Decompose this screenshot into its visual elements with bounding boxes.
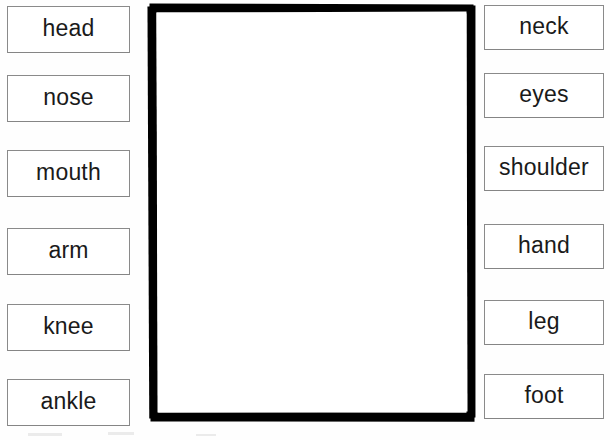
word-label: neck: [519, 15, 568, 38]
word-label: nose: [43, 86, 94, 109]
word-box-mouth[interactable]: mouth: [7, 150, 130, 197]
word-label: head: [43, 17, 95, 40]
word-box-neck[interactable]: neck: [484, 5, 604, 50]
word-box-ankle[interactable]: ankle: [7, 379, 130, 426]
scan-artifact: [28, 433, 62, 436]
word-box-knee[interactable]: knee: [7, 304, 130, 351]
word-box-head[interactable]: head: [7, 6, 130, 53]
frame-edge-right: [466, 6, 475, 418]
worksheet-page: head nose mouth arm knee ankle neck eyes: [0, 0, 610, 440]
frame-edge-bottom: [151, 412, 475, 421]
word-box-eyes[interactable]: eyes: [484, 73, 604, 118]
frame-blank-interior[interactable]: [156, 12, 467, 413]
word-label: foot: [524, 384, 563, 407]
word-label: ankle: [41, 390, 97, 413]
word-label: eyes: [519, 83, 568, 106]
word-box-shoulder[interactable]: shoulder: [484, 146, 604, 191]
center-picture-frame[interactable]: [147, 3, 476, 422]
word-box-leg[interactable]: leg: [484, 300, 604, 345]
word-label: mouth: [36, 161, 101, 184]
word-label: shoulder: [499, 156, 589, 179]
word-box-foot[interactable]: foot: [484, 374, 604, 419]
scan-artifact: [196, 434, 216, 436]
word-label: arm: [48, 239, 88, 262]
scan-artifact: [108, 432, 134, 435]
word-box-arm[interactable]: arm: [7, 228, 130, 275]
word-box-nose[interactable]: nose: [7, 75, 130, 122]
word-label: hand: [518, 234, 570, 257]
word-label: leg: [528, 310, 559, 333]
word-label: knee: [43, 315, 94, 338]
word-box-hand[interactable]: hand: [484, 224, 604, 269]
